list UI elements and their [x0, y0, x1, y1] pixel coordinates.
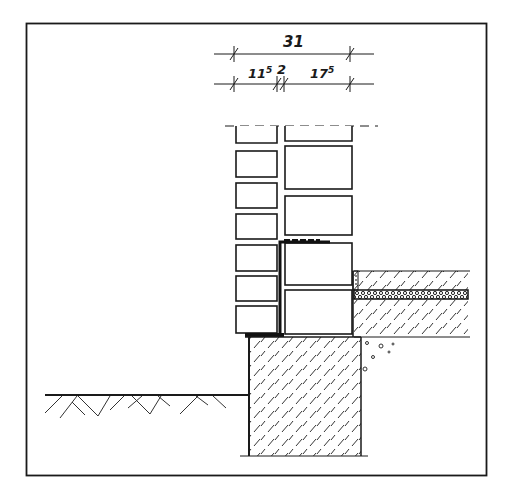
- dimension-segment-2: 2: [277, 62, 286, 77]
- outer-leaf-bricks: [236, 126, 277, 333]
- foundation: [249, 337, 361, 456]
- dimension-segments: [214, 76, 374, 92]
- section-drawing: 31 115 2 175: [0, 0, 509, 496]
- dimension-segment-3: 175: [310, 65, 334, 81]
- dimension-segment-1: 115: [248, 65, 272, 81]
- inner-leaf-blocks: [285, 126, 352, 334]
- gravel-fill: [363, 342, 394, 372]
- ground-surface: [45, 395, 249, 418]
- floor-slab: [353, 271, 470, 337]
- dimension-overall-label: 31: [283, 33, 304, 51]
